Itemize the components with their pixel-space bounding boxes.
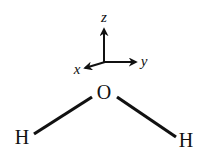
x-axis-label: x bbox=[73, 61, 81, 77]
coordinate-axes: z y x bbox=[73, 9, 148, 77]
water-molecule-diagram: z y x O H H bbox=[0, 0, 207, 156]
right-bond bbox=[117, 97, 176, 137]
y-axis-label: y bbox=[139, 53, 148, 69]
left-bond bbox=[34, 97, 92, 134]
molecule: O H H bbox=[15, 81, 193, 151]
z-axis-label: z bbox=[100, 9, 107, 25]
left-hydrogen-label: H bbox=[15, 126, 29, 148]
oxygen-atom-label: O bbox=[97, 81, 111, 103]
right-hydrogen-label: H bbox=[179, 129, 193, 151]
x-axis-arrow bbox=[85, 62, 105, 68]
